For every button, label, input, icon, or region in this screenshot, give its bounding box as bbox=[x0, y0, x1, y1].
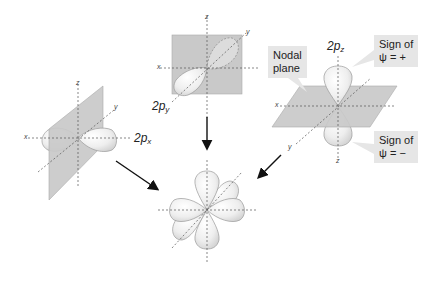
orbital-2py bbox=[160, 16, 258, 120]
callout-nodal-plane: Nodal plane bbox=[268, 46, 307, 78]
axis-label-z: z bbox=[76, 79, 80, 86]
combined-orbitals bbox=[158, 160, 258, 262]
orbital-label-2px: 2px bbox=[134, 131, 151, 146]
callout-minus-line2: ψ = − bbox=[379, 147, 413, 160]
callout-sign-plus: Sign of ψ = + bbox=[374, 35, 418, 67]
orbital-label-2py: 2py bbox=[152, 99, 169, 114]
callout-pointer-plus bbox=[352, 50, 374, 67]
orbital-label-2pz: 2pz bbox=[327, 39, 344, 54]
callout-minus-line1: Sign of bbox=[379, 134, 413, 147]
callout-plus-line1: Sign of bbox=[379, 38, 413, 51]
axis-label-y: y bbox=[246, 28, 250, 35]
callout-plus-line2: ψ = + bbox=[379, 51, 413, 64]
axis-label-x: x bbox=[24, 133, 28, 140]
axis-label-z: z bbox=[205, 13, 209, 20]
callout-pointer-minus bbox=[352, 142, 374, 154]
arrow-from-2px bbox=[116, 161, 157, 189]
callout-sign-minus: Sign of ψ = − bbox=[374, 131, 418, 163]
orbital-2px bbox=[28, 84, 130, 200]
callout-nodal-line2: plane bbox=[273, 62, 302, 75]
axis-label-y: y bbox=[114, 103, 118, 110]
arrow-from-2pz bbox=[259, 155, 281, 177]
axis-label-y: y bbox=[288, 143, 292, 150]
axis-label-z: z bbox=[336, 157, 340, 164]
axis-label-x: x bbox=[275, 101, 279, 108]
callout-nodal-line1: Nodal bbox=[273, 49, 302, 62]
axis-label-x: x bbox=[157, 63, 161, 70]
